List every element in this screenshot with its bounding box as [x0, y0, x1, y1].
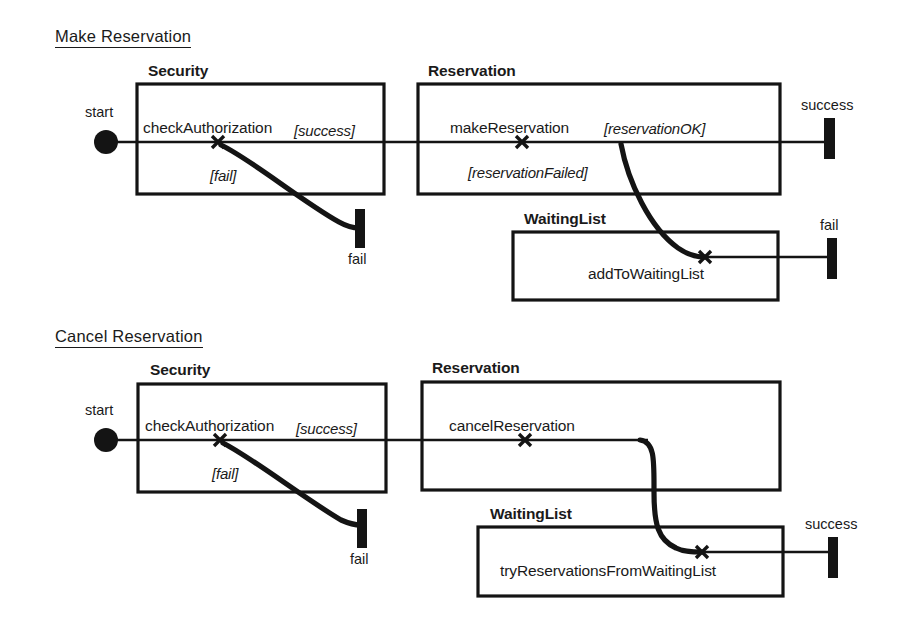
activity-label-addtowaitinglist-make: addToWaitingList [588, 266, 704, 282]
lane-box-security-cancel [138, 384, 386, 492]
activity-diagram-graphics [0, 0, 904, 628]
lane-box-security-make [137, 84, 384, 194]
lane-label-reservation-make: Reservation [428, 63, 516, 79]
start-label-make: start [85, 105, 113, 120]
terminal-label-fail-waitinglist-make: fail [820, 218, 839, 233]
terminal-label-fail-security-cancel: fail [350, 552, 369, 567]
end-bar-fail-waitinglist-make [827, 238, 837, 279]
guard-label-security-success-cancel: [success] [296, 421, 357, 436]
activity-label-makereservation-make: makeReservation [450, 120, 569, 136]
guard-label-security-fail-cancel: [fail] [212, 466, 238, 481]
section-title-make-reservation: Make Reservation [55, 28, 191, 48]
lane-box-reservation-cancel [422, 382, 780, 490]
lane-label-waitinglist-cancel: WaitingList [490, 506, 572, 522]
end-bar-fail-security-make [355, 209, 365, 248]
diagram-canvas: Make Reservation Security Reservation Wa… [0, 0, 904, 628]
guard-label-reservation-ok-make: [reservationOK] [604, 121, 705, 136]
guard-label-reservation-failed-make: [reservationFailed] [468, 165, 588, 180]
guard-label-security-fail-make: [fail] [210, 168, 236, 183]
lane-label-security-make: Security [148, 63, 208, 79]
end-bar-success-make [824, 118, 835, 159]
end-bar-fail-security-cancel [357, 509, 367, 548]
terminal-label-success-make: success [801, 98, 853, 113]
activity-label-tryreservations-cancel: tryReservationsFromWaitingList [500, 563, 716, 579]
activity-label-cancelreservation-cancel: cancelReservation [449, 418, 575, 434]
terminal-label-success-cancel: success [805, 517, 857, 532]
section-title-cancel-reservation: Cancel Reservation [55, 328, 203, 348]
lane-label-reservation-cancel: Reservation [432, 360, 520, 376]
guard-label-security-success-make: [success] [294, 123, 355, 138]
end-bar-success-cancel [828, 537, 838, 578]
start-label-cancel: start [85, 403, 113, 418]
activity-label-checkauthorization-make: checkAuthorization [143, 120, 272, 136]
activity-label-checkauthorization-cancel: checkAuthorization [145, 418, 274, 434]
lane-label-waitinglist-make: WaitingList [524, 211, 606, 227]
terminal-label-fail-security-make: fail [348, 252, 367, 267]
lane-label-security-cancel: Security [150, 362, 210, 378]
